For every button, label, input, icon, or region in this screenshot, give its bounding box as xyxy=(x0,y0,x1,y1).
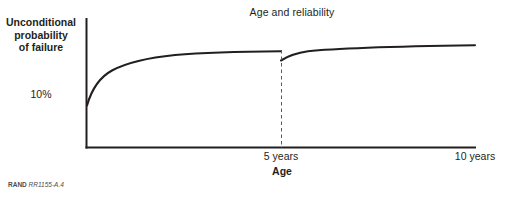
figure-credit: RAND RR1155-A.4 xyxy=(8,181,64,188)
credit-organization: RAND xyxy=(8,181,27,188)
x-axis-tick-label-10-years: 10 years xyxy=(425,150,524,162)
x-axis-tick-label-5-years: 5 years xyxy=(231,150,331,162)
figure-age-and-reliability: Age and reliability Unconditional probab… xyxy=(0,0,524,201)
failure-curve-post-overhaul xyxy=(281,45,475,60)
credit-report-id: RR1155-A.4 xyxy=(29,181,64,188)
x-axis-label: Age xyxy=(232,165,332,177)
failure-curve-pre-overhaul xyxy=(87,51,281,105)
